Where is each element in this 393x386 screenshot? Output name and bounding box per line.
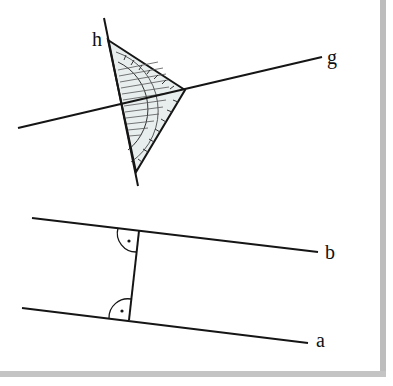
label-a: a (316, 329, 325, 351)
line-g (18, 57, 322, 128)
perpendicular-line (129, 231, 139, 320)
frame-border-bottom (0, 371, 386, 377)
line-b (32, 218, 318, 252)
set-square (108, 40, 185, 172)
line-a (22, 308, 308, 343)
geometry-figure: h g b a (0, 0, 393, 386)
label-h: h (92, 28, 102, 50)
frame-border-right (380, 0, 386, 377)
right-angle-marker-a (109, 299, 131, 318)
label-b: b (325, 241, 335, 263)
right-angle-marker-b (117, 228, 137, 252)
label-g: g (327, 46, 337, 69)
